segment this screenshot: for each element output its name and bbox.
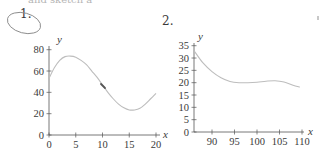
y-tick-label: 0 — [39, 130, 44, 141]
y-tick-label: 40 — [34, 87, 45, 98]
y-axis-label: y — [197, 30, 203, 42]
edge-mark — [317, 16, 319, 20]
y-tick-label: 35 — [179, 40, 190, 51]
charts-canvas: 02040608005101520yx 05101520253035909510… — [0, 0, 323, 161]
y-tick-label: 80 — [34, 44, 45, 55]
y-tick-label: 5 — [184, 114, 189, 125]
x-tick-label: 110 — [294, 136, 309, 147]
pencil-mark — [101, 84, 105, 88]
curve-line — [194, 51, 300, 87]
plot-1: 02040608005101520yx — [34, 33, 169, 150]
y-tick-label: 10 — [179, 102, 190, 113]
x-tick-label: 20 — [151, 139, 162, 150]
x-tick-label: 15 — [124, 139, 135, 150]
y-tick-label: 20 — [34, 108, 45, 119]
x-axis-label: x — [162, 128, 168, 140]
x-axis-label: x — [307, 125, 313, 137]
x-tick-label: 90 — [207, 136, 218, 147]
circle-annotation — [5, 9, 43, 37]
curve-line — [49, 56, 156, 110]
y-tick-label: 15 — [179, 90, 190, 101]
x-tick-label: 0 — [46, 139, 51, 150]
plot-2: 051015202530359095100105110yx — [179, 30, 314, 147]
y-axis-label: y — [56, 33, 62, 45]
x-tick-label: 10 — [97, 139, 108, 150]
x-tick-label: 100 — [249, 136, 265, 147]
y-tick-label: 25 — [179, 65, 190, 76]
y-tick-label: 60 — [34, 66, 45, 77]
y-tick-label: 20 — [179, 77, 190, 88]
y-tick-label: 30 — [179, 53, 190, 64]
x-tick-label: 95 — [229, 136, 240, 147]
y-tick-label: 0 — [184, 127, 189, 138]
x-tick-label: 5 — [73, 139, 78, 150]
x-tick-label: 105 — [272, 136, 288, 147]
